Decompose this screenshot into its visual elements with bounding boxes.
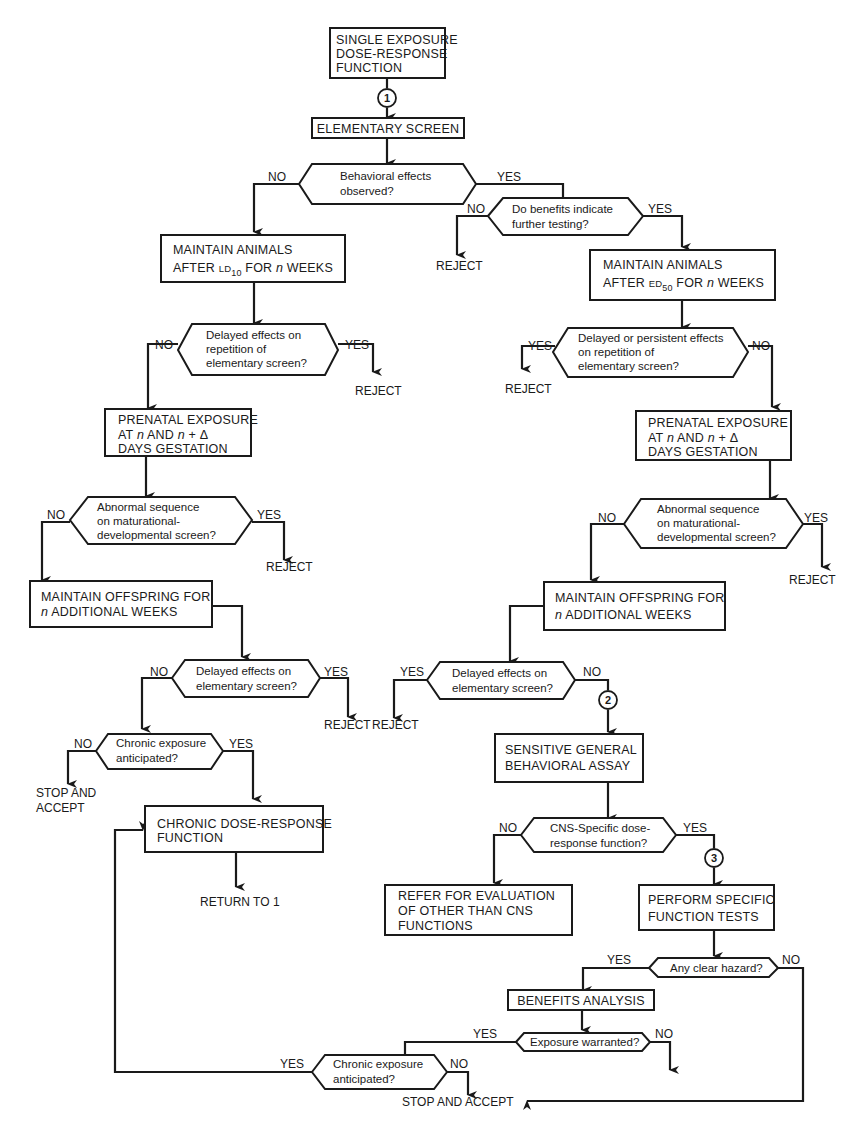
connector-3-label: 3 — [711, 852, 717, 864]
maintain-animals-ed50-box: MAINTAIN ANIMALS AFTER ED50 FOR n WEEKS — [590, 250, 775, 300]
stop-and-accept-left: STOP AND ACCEPT — [36, 786, 97, 815]
chronic-dose-line2: FUNCTION — [157, 831, 223, 845]
q-delayed-left-yes: YES — [345, 338, 369, 352]
maintain-offspring-right-box: MAINTAIN OFFSPRING FOR n ADDITIONAL WEEK… — [544, 582, 725, 630]
q-delayed-right-yes: YES — [528, 339, 552, 353]
q-delayed-right-line1: Delayed or persistent effects — [578, 332, 724, 344]
connector-circle-3: 3 — [705, 849, 723, 867]
benefits-analysis-box: BENEFITS ANALYSIS — [508, 990, 654, 1010]
benefits-analysis-label: BENEFITS ANALYSIS — [517, 994, 645, 1008]
q-cns-no: NO — [499, 821, 517, 835]
start-box: SINGLE EXPOSURE DOSE-RESPONSE FUNCTION — [330, 28, 458, 78]
offspring-left-line1: MAINTAIN OFFSPRING FOR — [41, 590, 210, 604]
q-abnormal-right-line2: on maturational- — [657, 517, 740, 529]
decision-abnormal-sequence-left: Abnormal sequence on maturational- devel… — [47, 497, 281, 544]
q-exposure-yes: YES — [473, 1027, 497, 1041]
q-abnormal-right-yes: YES — [804, 511, 828, 525]
connector-circle-1: 1 — [378, 89, 396, 107]
prenatal-exposure-left-box: PRENATAL EXPOSURE AT n AND n + Δ DAYS GE… — [105, 409, 258, 456]
q-chronic-bottom-yes: YES — [280, 1057, 304, 1071]
q-delayed-elem-left-yes: YES — [324, 665, 348, 679]
q-benefits-yes: YES — [648, 202, 672, 216]
q-delayed-left-no: NO — [155, 338, 173, 352]
reject-delayed-left: REJECT — [355, 384, 402, 398]
reject-abnormal-left: REJECT — [266, 560, 313, 574]
q-delayed-right-line3: elementary screen? — [578, 360, 679, 372]
connector-2-label: 2 — [605, 694, 611, 706]
q-abnormal-left-yes: YES — [257, 508, 281, 522]
q-behavioral-line1: Behavioral effects — [340, 170, 431, 182]
prenatal-left-line2: AT n AND n + Δ — [118, 428, 208, 442]
q-delayed-elem-right-no: NO — [583, 665, 601, 679]
decision-delayed-persistent-right: Delayed or persistent effects on repetit… — [528, 328, 770, 377]
prenatal-right-line1: PRENATAL EXPOSURE — [648, 416, 788, 430]
decision-delayed-elementary-right: Delayed effects on elementary screen? YE… — [400, 662, 601, 699]
decision-benefits-further-testing: Do benefits indicate further testing? NO… — [467, 198, 672, 235]
decision-delayed-effects-repetition-left: Delayed effects on repetition of element… — [155, 324, 369, 375]
stop-and-accept-bottom: STOP AND ACCEPT — [402, 1095, 514, 1109]
q-cns-line1: CNS-Specific dose- — [550, 822, 651, 834]
q-benefits-line1: Do benefits indicate — [512, 203, 613, 215]
maintain-offspring-left-box: MAINTAIN OFFSPRING FOR n ADDITIONAL WEEK… — [30, 581, 212, 627]
q-hazard-yes: YES — [607, 953, 631, 967]
decision-delayed-elementary-left: Delayed effects on elementary screen? NO… — [150, 660, 348, 697]
decision-exposure-warranted: Exposure warranted? YES NO — [473, 1027, 673, 1051]
reject-delayed-right: REJECT — [505, 382, 552, 396]
sensitive-assay-line2: BEHAVIORAL ASSAY — [505, 759, 631, 773]
q-abnormal-left-line2: on maturational- — [97, 515, 180, 527]
stop-accept-left-line2: ACCEPT — [36, 801, 85, 815]
start-line3: FUNCTION — [336, 61, 402, 75]
specific-tests-line2: FUNCTION TESTS — [648, 910, 759, 924]
q-delayed-right-no: NO — [752, 339, 770, 353]
refer-eval-line2: OF OTHER THAN CNS — [398, 904, 533, 918]
sensitive-behavioral-assay-box: SENSITIVE GENERAL BEHAVIORAL ASSAY — [495, 734, 643, 782]
refer-eval-line1: REFER FOR EVALUATION — [398, 889, 555, 903]
q-chronic-left-yes: YES — [229, 737, 253, 751]
stop-accept-left-line1: STOP AND — [36, 786, 97, 800]
return-to-1: RETURN TO 1 — [200, 895, 280, 909]
q-delayed-elem-right-line2: elementary screen? — [452, 682, 553, 694]
q-abnormal-right-line3: developmental screen? — [657, 531, 776, 543]
q-delayed-left-line1: Delayed effects on — [206, 329, 301, 341]
decision-abnormal-sequence-right: Abnormal sequence on maturational- devel… — [598, 499, 828, 548]
q-benefits-line2: further testing? — [512, 218, 589, 230]
reject-abnormal-right: REJECT — [789, 573, 836, 587]
sensitive-assay-line1: SENSITIVE GENERAL — [505, 743, 637, 757]
maintain-animals-ld10-box: MAINTAIN ANIMALS AFTER LD10 FOR n WEEKS — [161, 235, 345, 282]
q-exposure-no: NO — [655, 1027, 673, 1041]
q-chronic-bottom-no: NO — [450, 1057, 468, 1071]
chronic-dose-line1: CHRONIC DOSE-RESPONSE — [157, 817, 332, 831]
q-benefits-no: NO — [467, 202, 485, 216]
refer-evaluation-box: REFER FOR EVALUATION OF OTHER THAN CNS F… — [385, 885, 572, 935]
q-delayed-elem-left-no: NO — [150, 665, 168, 679]
flowchart-canvas: SINGLE EXPOSURE DOSE-RESPONSE FUNCTION 1… — [0, 0, 856, 1133]
q-abnormal-right-line1: Abnormal sequence — [657, 503, 759, 515]
q-behavioral-yes: YES — [497, 170, 521, 184]
q-abnormal-left-no: NO — [47, 508, 65, 522]
specific-tests-line1: PERFORM SPECIFIC — [648, 893, 775, 907]
chronic-dose-response-box: CHRONIC DOSE-RESPONSE FUNCTION — [145, 806, 332, 852]
q-delayed-left-line3: elementary screen? — [206, 357, 307, 369]
q-cns-line2: response function? — [550, 837, 647, 849]
maintain-ed50-line1: MAINTAIN ANIMALS — [603, 258, 723, 272]
q-delayed-left-line2: repetition of — [206, 343, 267, 355]
elementary-screen-label: ELEMENTARY SCREEN — [317, 122, 459, 136]
q-chronic-left-line1: Chronic exposure — [116, 737, 206, 749]
q-chronic-bottom-line1: Chronic exposure — [333, 1058, 423, 1070]
q-delayed-right-line2: on repetition of — [578, 346, 655, 358]
connector-circle-2: 2 — [599, 691, 617, 709]
q-abnormal-left-line3: developmental screen? — [97, 529, 216, 541]
q-exposure-line1: Exposure warranted? — [530, 1036, 639, 1048]
q-delayed-elem-left-line1: Delayed effects on — [196, 665, 291, 677]
connector-1-label: 1 — [384, 92, 390, 104]
q-hazard-line1: Any clear hazard? — [670, 962, 763, 974]
offspring-left-line2: n ADDITIONAL WEEKS — [41, 605, 178, 619]
q-cns-yes: YES — [683, 821, 707, 835]
reject-elem-left: REJECT — [324, 718, 371, 732]
q-delayed-elem-right-line1: Delayed effects on — [452, 667, 547, 679]
prenatal-left-line1: PRENATAL EXPOSURE — [118, 413, 258, 427]
q-delayed-elem-left-line2: elementary screen? — [196, 680, 297, 692]
perform-specific-function-tests-box: PERFORM SPECIFIC FUNCTION TESTS — [639, 885, 775, 930]
q-hazard-no: NO — [782, 953, 800, 967]
offspring-right-line1: MAINTAIN OFFSPRING FOR — [555, 591, 724, 605]
